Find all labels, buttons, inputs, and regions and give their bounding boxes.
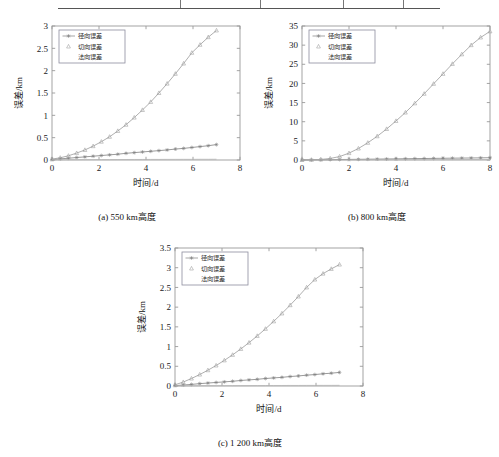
series-3 bbox=[302, 160, 490, 161]
data-point-marker bbox=[116, 152, 120, 156]
x-axis-tick-label: 6 bbox=[441, 163, 446, 173]
chart-svg-c: 0246800.511.522.533.5时间/d误差/km径向误差切向误差法向… bbox=[131, 240, 369, 422]
y-axis-tick-label: 1 bbox=[44, 111, 49, 121]
chart-panel-b: 0246805101520253035时间/d误差/km径向误差切向误差法向误差… bbox=[258, 18, 496, 228]
data-point-marker bbox=[247, 378, 251, 382]
chart-legend[interactable]: 径向误差切向误差法向误差 bbox=[309, 30, 375, 63]
data-point-marker bbox=[124, 151, 128, 155]
data-point-marker bbox=[141, 150, 145, 154]
y-axis-tick-label: 0.5 bbox=[160, 361, 172, 371]
legend-label: 切向误差 bbox=[201, 265, 225, 273]
x-axis-tick-label: 8 bbox=[238, 163, 243, 173]
x-axis-tick-label: 2 bbox=[347, 163, 352, 173]
x-axis-tick-label: 0 bbox=[50, 163, 55, 173]
y-axis-tick-label: 0 bbox=[167, 381, 172, 391]
data-point-marker bbox=[157, 149, 161, 153]
data-point-marker bbox=[222, 380, 226, 384]
x-axis-title: 时间/d bbox=[256, 403, 282, 414]
caption-c: (c) 1 200 km高度 bbox=[131, 436, 369, 449]
x-axis-tick-label: 8 bbox=[361, 389, 366, 399]
legend-label: 径向误差 bbox=[78, 32, 102, 40]
data-point-marker bbox=[488, 156, 492, 160]
y-axis-tick-label: 5 bbox=[294, 136, 299, 146]
y-axis-title: 误差/km bbox=[13, 77, 24, 109]
data-point-marker bbox=[239, 379, 243, 383]
y-axis-tick-label: 30 bbox=[289, 40, 299, 50]
y-axis-tick-label: 10 bbox=[289, 117, 299, 127]
x-axis-title: 时间/d bbox=[383, 177, 409, 188]
legend-label: 切向误差 bbox=[78, 43, 102, 51]
data-point-marker bbox=[108, 153, 112, 157]
y-axis-tick-label: 0 bbox=[294, 155, 299, 165]
y-axis-tick-label: 2.5 bbox=[37, 44, 49, 54]
y-axis-tick-label: 3.5 bbox=[160, 243, 172, 253]
data-point-marker bbox=[305, 373, 309, 377]
x-axis-tick-label: 0 bbox=[173, 389, 178, 399]
data-point-marker bbox=[182, 146, 186, 150]
data-point-marker bbox=[288, 375, 292, 379]
data-point-marker bbox=[198, 145, 202, 149]
data-point-marker bbox=[99, 154, 103, 158]
series-line bbox=[52, 159, 217, 160]
legend-label: 法向误差 bbox=[78, 53, 102, 61]
chart-svg-b: 0246805101520253035时间/d误差/km径向误差切向误差法向误差 bbox=[258, 18, 496, 196]
y-axis-tick-label: 3 bbox=[44, 21, 49, 31]
legend-label: 切向误差 bbox=[328, 43, 352, 51]
x-axis-tick-label: 4 bbox=[267, 389, 272, 399]
data-point-marker bbox=[215, 28, 219, 32]
x-axis-tick-label: 0 bbox=[300, 163, 305, 173]
data-point-marker bbox=[198, 382, 202, 386]
data-point-marker bbox=[317, 34, 321, 38]
plot-area-a: 0246800.511.522.53时间/d误差/km径向误差切向误差法向误差 bbox=[8, 18, 246, 193]
data-point-marker bbox=[214, 381, 218, 385]
plot-area-c: 0246800.511.522.533.5时间/d误差/km径向误差切向误差法向… bbox=[131, 240, 369, 415]
data-point-marker bbox=[329, 371, 333, 375]
y-axis-tick-label: 0 bbox=[44, 155, 49, 165]
y-axis-tick-label: 1.5 bbox=[37, 88, 49, 98]
data-point-marker bbox=[321, 372, 325, 376]
series-3 bbox=[52, 159, 217, 160]
data-point-marker bbox=[272, 376, 276, 380]
y-axis-tick-label: 35 bbox=[289, 21, 299, 31]
data-point-marker bbox=[255, 377, 259, 381]
data-point-marker bbox=[165, 148, 169, 152]
data-point-marker bbox=[313, 373, 317, 377]
y-axis-tick-label: 0.5 bbox=[37, 133, 49, 143]
y-axis-tick-label: 2.5 bbox=[160, 283, 172, 293]
data-point-marker bbox=[190, 256, 194, 260]
legend-label: 法向误差 bbox=[328, 53, 352, 61]
data-point-marker bbox=[385, 157, 389, 161]
caption-a: (a) 550 km高度 bbox=[8, 210, 246, 223]
table-bottom-edge-fragment bbox=[58, 0, 440, 9]
table-column-divider bbox=[260, 0, 261, 8]
table-column-divider bbox=[343, 0, 344, 8]
data-point-marker bbox=[375, 157, 379, 161]
y-axis-tick-label: 1 bbox=[167, 342, 172, 352]
data-point-marker bbox=[83, 155, 87, 159]
data-point-marker bbox=[338, 262, 342, 266]
chart-legend[interactable]: 径向误差切向误差法向误差 bbox=[59, 30, 125, 63]
data-point-marker bbox=[149, 149, 153, 153]
y-axis-tick-label: 25 bbox=[289, 59, 299, 69]
x-axis-tick-label: 6 bbox=[314, 389, 319, 399]
data-point-marker bbox=[173, 147, 177, 151]
data-point-marker bbox=[394, 157, 398, 161]
caption-b: (b) 800 km高度 bbox=[258, 210, 496, 223]
y-axis-title: 误差/km bbox=[136, 301, 147, 333]
y-axis-tick-label: 2 bbox=[167, 302, 172, 312]
data-point-marker bbox=[215, 143, 219, 147]
data-point-marker bbox=[206, 144, 210, 148]
chart-legend[interactable]: 径向误差切向误差法向误差 bbox=[182, 252, 248, 285]
data-point-marker bbox=[264, 377, 268, 381]
x-axis-tick-label: 4 bbox=[394, 163, 399, 173]
data-point-marker bbox=[132, 151, 136, 155]
legend-label: 径向误差 bbox=[328, 32, 352, 40]
chart-panel-c: 0246800.511.522.533.5时间/d误差/km径向误差切向误差法向… bbox=[131, 240, 369, 455]
y-axis-tick-label: 15 bbox=[289, 98, 299, 108]
y-axis-tick-label: 20 bbox=[289, 79, 299, 89]
data-point-marker bbox=[357, 157, 361, 161]
data-point-marker bbox=[190, 146, 194, 150]
table-column-divider bbox=[403, 0, 404, 8]
x-axis-title: 时间/d bbox=[133, 177, 159, 188]
x-axis-tick-label: 8 bbox=[488, 163, 493, 173]
